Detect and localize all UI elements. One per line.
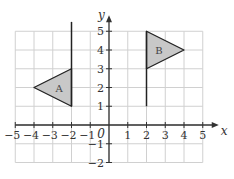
- y-tick-label: 5: [97, 25, 104, 38]
- y-tick-label: 1: [97, 100, 104, 113]
- y-tick-label: 2: [97, 82, 104, 95]
- y-tick-label: 3: [97, 63, 104, 76]
- coordinate-grid: AB −5−4−3−2−112345−2−1123450xy: [0, 0, 234, 179]
- x-tick-label: −5: [4, 129, 20, 142]
- y-tick-label: 4: [97, 44, 104, 57]
- x-tick-label: −2: [60, 129, 76, 142]
- shape-label: B: [155, 45, 162, 56]
- y-axis-arrow-icon: [106, 15, 112, 22]
- y-axis-label: y: [97, 8, 105, 22]
- x-tick-label: 2: [143, 129, 150, 142]
- x-axis-label: x: [221, 124, 228, 138]
- shape-label: A: [54, 83, 63, 94]
- x-tick-label: −4: [23, 129, 39, 142]
- origin-label: 0: [97, 127, 105, 141]
- x-tick-label: −3: [42, 129, 58, 142]
- x-tick-label: 1: [124, 129, 131, 142]
- x-tick-label: 3: [162, 129, 169, 142]
- y-tick-label: −2: [88, 157, 104, 170]
- x-tick-label: 5: [199, 129, 206, 142]
- x-tick-label: 4: [181, 129, 188, 142]
- x-axis-arrow-icon: [212, 122, 219, 128]
